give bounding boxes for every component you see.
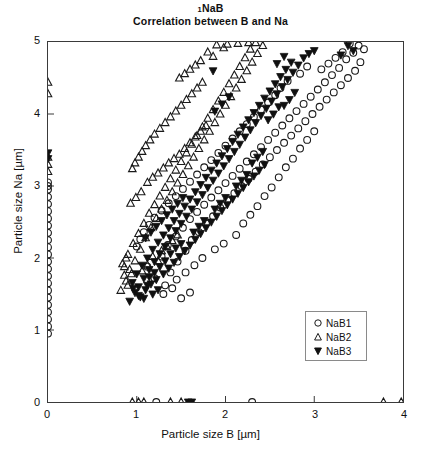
- data-point: [48, 265, 51, 272]
- data-point: [336, 65, 343, 72]
- chart-title-subtitle: Correlation between B and Na: [0, 15, 421, 27]
- data-point: [257, 112, 265, 119]
- data-point: [231, 148, 239, 155]
- data-point: [182, 269, 189, 276]
- data-point: [48, 316, 51, 323]
- data-point: [48, 168, 52, 175]
- data-point: [232, 84, 240, 91]
- data-point: [282, 164, 289, 171]
- data-point: [209, 177, 217, 184]
- data-point: [252, 120, 260, 127]
- data-point: [153, 399, 160, 402]
- data-point: [279, 122, 286, 129]
- data-point: [194, 171, 201, 178]
- data-point: [233, 232, 240, 239]
- open-triangle-up-icon: [311, 330, 325, 344]
- data-point: [48, 237, 51, 244]
- data-point: [277, 74, 285, 81]
- x-tick-0: 0: [34, 408, 60, 420]
- chart-title-main: 1NaB: [0, 2, 421, 14]
- data-point: [213, 160, 221, 167]
- data-point: [165, 225, 173, 232]
- data-point: [181, 203, 189, 210]
- data-point: [287, 59, 295, 66]
- data-point: [345, 75, 352, 82]
- x-tick-2: 2: [212, 408, 238, 420]
- y-axis-label: Particle size Na [µm]: [12, 111, 24, 291]
- data-point: [300, 101, 307, 108]
- data-point: [240, 220, 247, 227]
- data-point: [160, 291, 167, 298]
- data-point: [361, 46, 368, 53]
- data-point: [236, 141, 244, 148]
- data-point: [293, 108, 300, 115]
- data-point: [236, 62, 244, 69]
- filled-triangle-down-icon: [311, 344, 325, 358]
- data-point: [151, 201, 159, 208]
- data-point: [241, 54, 249, 61]
- data-point: [273, 61, 281, 68]
- data-point: [268, 184, 275, 191]
- data-point: [48, 215, 51, 222]
- data-point: [169, 285, 176, 292]
- y-tick-2: 2: [22, 252, 40, 264]
- data-point: [160, 232, 168, 239]
- data-point: [261, 193, 268, 200]
- data-point: [220, 163, 228, 170]
- y-tick-1: 1: [22, 324, 40, 336]
- data-point: [204, 184, 212, 191]
- legend-item-nab1[interactable]: NaB1: [311, 316, 366, 330]
- data-point: [162, 282, 169, 289]
- data-point: [199, 255, 206, 262]
- data-point: [191, 262, 198, 269]
- legend[interactable]: NaB1 NaB2 NaB3: [305, 311, 367, 361]
- data-point: [225, 80, 233, 87]
- data-point: [222, 180, 229, 187]
- data-point: [236, 165, 243, 172]
- data-point: [193, 199, 201, 206]
- x-tick-3: 3: [302, 408, 328, 420]
- data-point: [48, 287, 51, 294]
- data-point: [190, 153, 198, 160]
- data-point: [225, 156, 233, 163]
- data-point: [149, 246, 157, 253]
- data-point: [259, 42, 267, 49]
- y-tick-0: 0: [22, 396, 40, 408]
- data-point: [201, 201, 208, 208]
- data-point: [199, 78, 207, 85]
- data-point: [145, 209, 153, 216]
- data-point: [294, 62, 302, 69]
- data-point: [254, 203, 261, 210]
- data-point: [137, 188, 145, 195]
- data-point: [175, 210, 183, 217]
- data-point: [208, 194, 215, 201]
- data-point: [173, 276, 180, 283]
- data-point: [238, 75, 246, 82]
- data-point: [323, 96, 330, 103]
- data-point: [204, 48, 212, 55]
- legend-item-nab2[interactable]: NaB2: [311, 330, 366, 344]
- data-point: [290, 155, 297, 162]
- data-point: [48, 244, 51, 251]
- data-point: [288, 132, 295, 139]
- data-point: [178, 295, 185, 302]
- data-point: [311, 128, 318, 135]
- data-point: [144, 255, 152, 262]
- data-point: [246, 127, 254, 134]
- data-point: [397, 398, 403, 402]
- data-point: [300, 55, 308, 62]
- data-point: [48, 193, 51, 200]
- legend-label-nab3: NaB3: [326, 346, 351, 357]
- data-point: [241, 134, 249, 141]
- data-point: [266, 154, 273, 161]
- data-point: [197, 182, 205, 189]
- data-point: [177, 157, 185, 164]
- data-point: [357, 59, 364, 66]
- x-tick-1: 1: [123, 408, 149, 420]
- data-point: [325, 60, 332, 67]
- legend-item-nab3[interactable]: NaB3: [311, 344, 366, 358]
- data-point: [184, 162, 192, 169]
- data-point: [318, 66, 325, 73]
- data-point: [48, 323, 51, 330]
- data-point: [194, 209, 201, 216]
